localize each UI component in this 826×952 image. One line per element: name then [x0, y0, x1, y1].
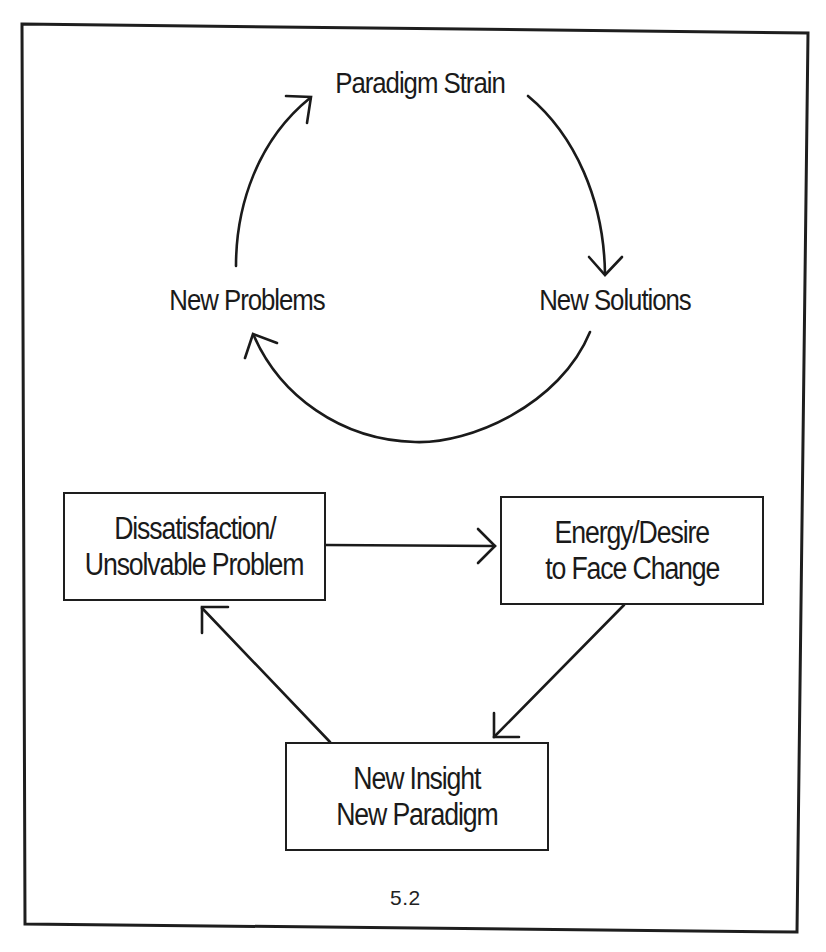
- box-dissatisfaction-line-1: Dissatisfaction/: [114, 511, 275, 547]
- figure-number: 5.2: [390, 886, 421, 910]
- node-paradigm-strain: Paradigm Strain: [325, 66, 514, 100]
- box-dissatisfaction: Dissatisfaction/ Unsolvable Problem: [63, 492, 326, 601]
- arrow-paradigm-strain-to-new-solutions: [528, 96, 622, 275]
- box-energy-desire-line-2: to Face Change: [545, 551, 719, 587]
- arrow-new-problems-to-paradigm-strain: [236, 96, 311, 266]
- box-new-insight: New Insight New Paradigm: [285, 742, 549, 851]
- node-new-solutions: New Solutions: [516, 283, 714, 317]
- box-new-insight-line-2: New Paradigm: [336, 797, 497, 833]
- arrow-energy-to-new-insight: [494, 605, 624, 737]
- arrow-new-solutions-to-new-problems: [245, 332, 590, 442]
- box-energy-desire-line-1: Energy/Desire: [555, 515, 709, 551]
- box-energy-desire: Energy/Desire to Face Change: [500, 496, 764, 605]
- node-new-problems: New Problems: [148, 283, 346, 317]
- arrow-dissatisfaction-to-energy: [326, 529, 495, 563]
- box-new-insight-line-1: New Insight: [353, 761, 480, 797]
- box-dissatisfaction-line-2: Unsolvable Problem: [85, 547, 303, 583]
- arrow-new-insight-to-dissatisfaction: [202, 607, 330, 742]
